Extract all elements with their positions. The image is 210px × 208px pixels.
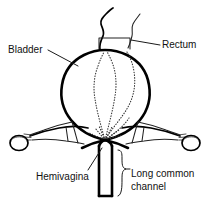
common-channel-brace <box>118 150 130 196</box>
bladder-outline <box>61 38 149 140</box>
label-bladder: Bladder <box>8 44 43 55</box>
fallopian-tube-right <box>122 122 200 151</box>
diagram-canvas: Bladder Rectum Hemivagina Long common ch… <box>0 0 210 208</box>
label-long-common-channel-line1: Long common <box>131 168 194 179</box>
fallopian-tube-left <box>10 122 88 151</box>
label-hemivagina: Hemivagina <box>36 171 89 182</box>
anatomy-diagram: Bladder Rectum Hemivagina Long common ch… <box>0 0 210 208</box>
rectum-tubes <box>100 8 140 50</box>
ovary-left-icon <box>10 136 28 151</box>
label-long-common-channel-line2: channel <box>131 181 166 192</box>
label-rectum: Rectum <box>162 39 196 50</box>
ovary-right-icon <box>182 136 200 151</box>
bladder-leader <box>48 50 78 66</box>
rectum-leader <box>131 40 160 45</box>
